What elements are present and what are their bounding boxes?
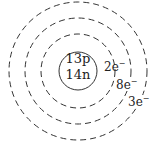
shell-2-label: 8e− [116, 78, 137, 91]
shell-3-label: 3e− [128, 95, 149, 108]
shell-1-label: 2e− [104, 60, 125, 73]
protons-label: 13p [58, 51, 98, 67]
neutrons-label: 14n [58, 67, 98, 83]
nucleus-label: 13p 14n [58, 51, 98, 83]
